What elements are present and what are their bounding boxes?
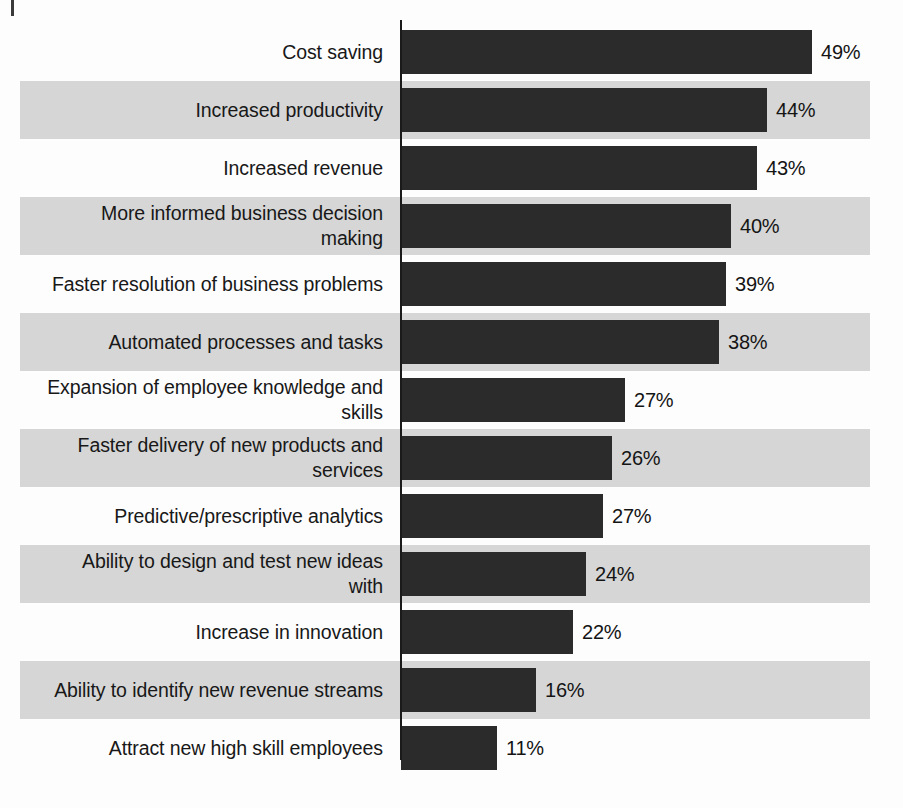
chart-row: Attract new high skill employees11% — [0, 719, 903, 777]
chart-row: Expansion of employee knowledge and skil… — [0, 371, 903, 429]
category-label: More informed business decision making — [20, 197, 392, 255]
bar-value-label: 44% — [767, 81, 815, 139]
bar-value-label: 16% — [536, 661, 584, 719]
category-label: Increased productivity — [20, 81, 392, 139]
chart-row: Cost saving49% — [0, 23, 903, 81]
bar — [401, 726, 497, 770]
bar-value-label: 27% — [625, 371, 673, 429]
category-label: Faster delivery of new products and serv… — [20, 429, 392, 487]
bar — [401, 436, 612, 480]
bar-value-label: 43% — [757, 139, 805, 197]
category-label: Automated processes and tasks — [20, 313, 392, 371]
bar — [401, 552, 586, 596]
chart-row: Automated processes and tasks38% — [0, 313, 903, 371]
bar-value-label: 40% — [731, 197, 779, 255]
bar — [401, 320, 719, 364]
category-label: Increased revenue — [20, 139, 392, 197]
chart-row: Ability to design and test new ideas wit… — [0, 545, 903, 603]
bar-value-label: 22% — [573, 603, 621, 661]
chart-row: Ability to identify new revenue streams1… — [0, 661, 903, 719]
chart-row: Predictive/prescriptive analytics27% — [0, 487, 903, 545]
plot-area: Cost saving49%Increased productivity44%I… — [0, 0, 903, 808]
bar — [401, 610, 573, 654]
category-label: Faster resolution of business problems — [20, 255, 392, 313]
value-axis-line — [400, 20, 402, 760]
chart-row: Faster delivery of new products and serv… — [0, 429, 903, 487]
bar-value-label: 24% — [586, 545, 634, 603]
bar-value-label: 27% — [603, 487, 651, 545]
bar-chart-figure: Cost saving49%Increased productivity44%I… — [0, 0, 903, 808]
bar — [401, 668, 536, 712]
chart-row: More informed business decision making40… — [0, 197, 903, 255]
category-label: Ability to identify new revenue streams — [20, 661, 392, 719]
category-label: Predictive/prescriptive analytics — [20, 487, 392, 545]
chart-row: Increase in innovation22% — [0, 603, 903, 661]
bar — [401, 204, 731, 248]
footer-bleed-text — [360, 786, 903, 806]
bar — [401, 88, 767, 132]
category-label: Increase in innovation — [20, 603, 392, 661]
chart-row: Increased revenue43% — [0, 139, 903, 197]
bar-value-label: 49% — [812, 23, 860, 81]
chart-row: Increased productivity44% — [0, 81, 903, 139]
category-label: Cost saving — [20, 23, 392, 81]
bar — [401, 378, 625, 422]
bar — [401, 30, 812, 74]
category-label: Ability to design and test new ideas wit… — [20, 545, 392, 603]
category-label: Expansion of employee knowledge and skil… — [20, 371, 392, 429]
bar — [401, 146, 757, 190]
bar-value-label: 38% — [719, 313, 767, 371]
bar — [401, 262, 726, 306]
bar-value-label: 11% — [497, 719, 544, 777]
category-label: Attract new high skill employees — [20, 719, 392, 777]
bar-value-label: 39% — [726, 255, 774, 313]
bar — [401, 494, 603, 538]
bar-value-label: 26% — [612, 429, 660, 487]
chart-row: Faster resolution of business problems39… — [0, 255, 903, 313]
